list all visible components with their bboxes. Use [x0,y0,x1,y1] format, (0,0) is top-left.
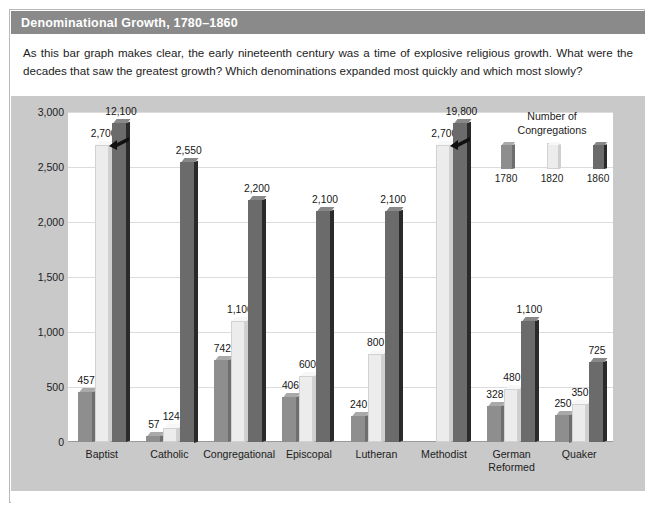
bar-face [231,321,245,442]
bar-face [180,162,194,443]
bar-value-label: 2,100 [312,194,338,205]
bar-group: 4572,70012,100 [68,112,136,442]
bar-face [95,145,109,442]
category-label: GermanReformed [478,446,546,488]
bar-face [572,404,586,443]
y-tick-label: 1,500 [12,271,64,283]
category-labels: BaptistCatholicCongregationalEpiscopalLu… [68,446,613,488]
bar-value-label: 2,100 [380,194,406,205]
bar-value-label: 742 [214,343,231,354]
bar-top [386,207,403,211]
bar-1780[interactable]: 742 [214,360,228,442]
bar-1860[interactable]: 12,100 [112,123,126,442]
bar-face [214,360,228,442]
bar-value-label: 57 [148,419,159,430]
bar-face [112,123,126,442]
bar-value-label: 124 [163,411,180,422]
y-tick-label: 2,000 [12,216,64,228]
y-tick-label: 500 [12,381,64,393]
bar-group: 571242,550 [136,112,204,442]
bar-value-label: 350 [571,387,588,398]
bar-1820[interactable]: 800 [368,354,382,442]
bar-value-label: 12,100 [105,106,137,117]
y-tick-label: 0 [12,436,64,448]
bar-top [556,411,573,415]
bar-top [352,412,369,416]
bar-side [603,361,607,442]
bar-1860[interactable]: 725 [589,362,603,442]
bar-1820[interactable]: 480 [504,389,518,442]
bar-1860[interactable]: 2,100 [316,211,330,442]
bar-value-label: 19,800 [446,106,478,117]
bar-value-label: 250 [554,398,571,409]
bar-1780[interactable]: 240 [351,416,365,442]
legend-item-1780[interactable]: 1780 [493,145,519,184]
bar-face [351,416,365,442]
category-label: Lutheran [343,446,411,488]
bar-1780[interactable]: 406 [282,397,296,442]
y-tick-label: 1,000 [12,326,64,338]
legend-item-1820[interactable]: 1820 [539,145,565,184]
bar-face [589,362,603,442]
legend-label: 1860 [585,173,611,184]
bar-face [282,397,296,442]
bar-1860[interactable]: 2,100 [385,211,399,442]
y-tick-label: 2,500 [12,161,64,173]
bar-1860[interactable]: 19,800 [453,123,467,442]
bar-side [194,160,198,442]
bar-face [385,211,399,442]
legend-swatch-icon [593,145,604,169]
bar-face [316,211,330,442]
bar-top [182,158,199,162]
bar-1780[interactable]: 328 [487,406,501,442]
bar-value-label: 2,550 [176,145,202,156]
bar-face [299,376,313,442]
bar-side [535,320,539,442]
bar-1860[interactable]: 2,200 [248,200,262,442]
bar-top [522,317,539,321]
bar-1780[interactable]: 250 [555,415,569,443]
bar-group: 2408002,100 [341,112,409,442]
bar-1820[interactable]: 350 [572,404,586,443]
bar-1820[interactable]: 2,700 [95,145,109,442]
bar-face [78,392,92,442]
category-label: Baptist [68,446,136,488]
bar-value-label: 328 [486,389,503,400]
axis-break-mark [450,136,474,149]
legend-label: 1780 [493,173,519,184]
legend-label: 1820 [539,173,565,184]
bar-value-label: 600 [299,359,316,370]
bar-1860[interactable]: 2,550 [180,162,194,443]
category-label: Congregational [203,446,275,488]
bar-value-label: 800 [367,337,384,348]
bar-1780[interactable]: 457 [78,392,92,442]
bar-face [436,145,450,442]
legend-swatch-icon [547,145,558,169]
bar-face [521,321,535,442]
page-title: Denominational Growth, 1780–1860 [21,16,238,30]
bar-1820[interactable]: 600 [299,376,313,442]
bar-face [453,123,467,442]
legend-title-line1: Number of [487,110,617,124]
legend-title: Number of Congregations [487,110,617,138]
y-axis-ticks: 3,0002,5002,0001,5001,0005000 [11,112,64,442]
legend-item-1860[interactable]: 1860 [585,145,611,184]
chart-legend: Number of Congregations 178018201860 [487,110,617,184]
bar-1780[interactable]: 57 [146,436,160,442]
bar-top [488,402,505,406]
bar-value-label: 1,100 [516,304,542,315]
bar-face [487,406,501,442]
bar-group: 7421,1002,200 [204,112,272,442]
bar-face [163,428,177,442]
bar-face [248,200,262,442]
y-tick-label: 3,000 [12,106,64,118]
bar-1860[interactable]: 1,100 [521,321,535,442]
bar-1820[interactable]: 124 [163,428,177,442]
bar-top [454,119,471,123]
bar-1820[interactable]: 1,100 [231,321,245,442]
bar-1820[interactable]: 2,700 [436,145,450,442]
category-label: Quaker [545,446,613,488]
figure-caption: As this bar graph makes clear, the early… [11,34,645,96]
bar-face [368,354,382,442]
bar-value-label: 2,200 [244,183,270,194]
